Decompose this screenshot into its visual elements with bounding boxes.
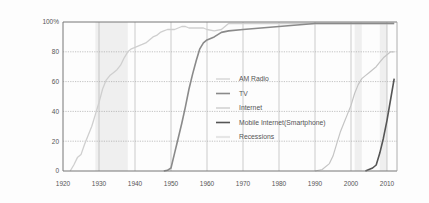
y-tick-label: 40: [52, 108, 60, 115]
x-axis-ticks: 1920193019401950196019701980199020002010: [56, 180, 395, 187]
x-tick-label: 1920: [56, 180, 71, 187]
y-tick-label: 20: [52, 138, 60, 145]
x-tick-label: 1940: [128, 180, 143, 187]
legend-label: TV: [239, 90, 248, 97]
y-tick-label: 0: [55, 167, 59, 174]
y-tick-label: 60: [52, 78, 60, 85]
recession-band: [355, 22, 362, 171]
x-tick-label: 2000: [344, 180, 359, 187]
x-tick-label: 1950: [164, 180, 179, 187]
y-tick-label: 80: [52, 48, 60, 55]
x-tick-label: 2010: [380, 180, 395, 187]
legend-label: Recessions: [239, 133, 275, 140]
legend: AM RadioTVInternetMobile Internet(Smartp…: [216, 75, 326, 140]
y-axis-ticks: 020406080100%: [42, 18, 59, 174]
adoption-line-chart: 020406080100% 19201930194019501960197019…: [0, 0, 429, 203]
x-tick-label: 1970: [236, 180, 251, 187]
legend-label: Internet: [239, 104, 262, 111]
x-tick-label: 1960: [200, 180, 215, 187]
y-tick-label: 100%: [42, 18, 59, 25]
legend-label: AM Radio: [239, 75, 269, 82]
x-tick-label: 1990: [308, 180, 323, 187]
chart-container: 020406080100% 19201930194019501960197019…: [0, 0, 429, 203]
x-tick-label: 1930: [92, 180, 107, 187]
x-tick-label: 1980: [272, 180, 287, 187]
legend-label: Mobile Internet(Smartphone): [239, 119, 326, 127]
